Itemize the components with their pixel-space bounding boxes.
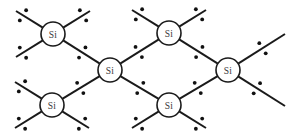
electron-dot [134,117,138,121]
electron-dot [24,56,28,60]
electron-dot [75,81,79,85]
atom-si-bottom-right: Si [157,93,181,117]
electron-dot [17,117,21,121]
electron-dot [83,117,87,121]
atom-si-top-right: Si [157,21,181,45]
bond-topright-right [179,39,218,63]
bond-center-bottomright [120,76,158,99]
electron-dot [78,8,82,12]
electron-dot [23,79,27,83]
bond-right-up-right [238,34,285,64]
electron-dot [17,90,21,94]
electron-dot [200,18,204,22]
electron-dot [200,117,204,121]
electron-dot [141,81,145,85]
electron-dot [199,91,203,95]
bond-topright-center [120,39,159,63]
electron-dot [140,127,144,131]
atom-label: Si [165,29,173,39]
electron-dot [140,55,144,59]
atom-label: Si [48,101,56,111]
electron-dot [77,127,81,131]
electron-dot [193,81,197,85]
electron-dot [258,81,262,85]
electron-dot [84,45,88,49]
bond-center-bottomleft [62,76,99,99]
electron-dot [135,91,139,95]
bond-right-bottomright [179,76,217,99]
atom-si-top-left: Si [41,22,65,46]
atoms-group: SiSiSiSiSiSi [40,21,240,117]
electron-dot [194,7,198,11]
lattice-canvas: SiSiSiSiSiSi [0,0,291,132]
silicon-lattice-diagram: SiSiSiSiSiSi [0,0,291,132]
atom-label: Si [106,66,114,76]
atom-si-right: Si [216,58,240,82]
atom-si-bottom-left: Si [40,93,64,117]
atom-label: Si [49,30,57,40]
bond-right-down-right [238,76,285,106]
electron-dot [140,7,144,11]
electron-dot [257,41,261,45]
electron-dot [24,8,28,12]
atom-si-center: Si [98,58,122,82]
electron-dot [23,127,27,131]
atom-label: Si [165,101,173,111]
electron-dot [134,18,138,22]
electron-dot [18,46,22,50]
electron-dot [18,19,22,23]
atom-label: Si [224,66,232,76]
electron-dot [264,51,268,55]
electron-dot [77,56,81,60]
electron-dot [194,55,198,59]
electron-dot [81,91,85,95]
electron-dot [134,45,138,49]
electron-dot [201,45,205,49]
electron-dot [252,91,256,95]
electron-dot [84,19,88,23]
bond-topleft-center [63,40,100,63]
electron-dot [194,127,198,131]
